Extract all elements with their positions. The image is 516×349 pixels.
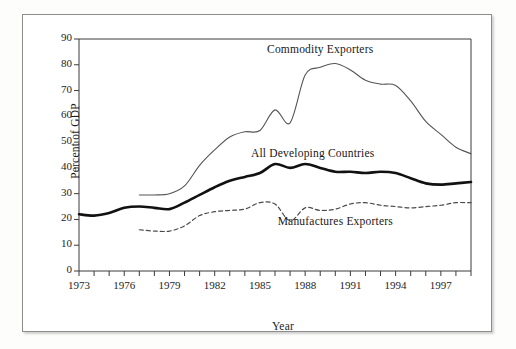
y-tick-label: 70 <box>48 83 72 95</box>
x-tick-label: 1985 <box>240 279 280 291</box>
y-tick-label: 60 <box>48 108 72 120</box>
x-tick-label: 1988 <box>285 279 325 291</box>
x-tick-label: 1997 <box>421 279 461 291</box>
y-tick-label: 0 <box>48 263 72 275</box>
chart-frame: Percent of GDP Year 0102030405060708090 … <box>22 14 492 332</box>
y-tick-label: 20 <box>48 211 72 223</box>
y-tick-label: 10 <box>48 237 72 249</box>
x-axis-ticks <box>79 271 471 276</box>
series-label-1: All Developing Countries <box>251 147 375 159</box>
x-tick-label: 1973 <box>59 279 99 291</box>
x-tick-label: 1982 <box>195 279 235 291</box>
x-tick-label: 1994 <box>376 279 416 291</box>
x-axis-title: Year <box>203 320 363 332</box>
y-tick-label: 30 <box>48 186 72 198</box>
series-label-0: Commodity Exporters <box>267 43 373 55</box>
x-tick-label: 1976 <box>104 279 144 291</box>
y-tick-label: 90 <box>48 31 72 43</box>
chart-page: Percent of GDP Year 0102030405060708090 … <box>0 0 516 349</box>
series-line-0 <box>139 63 471 195</box>
series-label-2: Manufactures Exporters <box>278 215 393 227</box>
x-tick-label: 1979 <box>149 279 189 291</box>
y-tick-label: 80 <box>48 57 72 69</box>
y-tick-label: 40 <box>48 160 72 172</box>
x-tick-label: 1991 <box>330 279 370 291</box>
y-tick-label: 50 <box>48 134 72 146</box>
